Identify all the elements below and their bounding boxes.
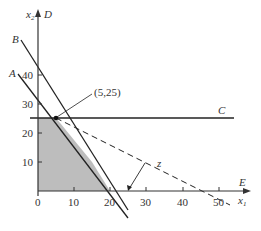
y-tick-label-40: 40	[22, 69, 34, 81]
y-tick-label-20: 20	[22, 127, 34, 139]
lp-diagram: (5,25) 10 20 30 40 0 10 20 30 40 50 x2 D…	[0, 0, 261, 231]
line-c-label: C	[218, 104, 226, 116]
line-b-label: B	[12, 33, 19, 45]
x-axis-end-label: E	[238, 176, 246, 188]
x-tick-label-10: 10	[68, 196, 80, 208]
line-z-label: z	[156, 157, 162, 169]
y-axis-label-sub: 2	[31, 14, 35, 22]
y-axis-label: x2	[25, 8, 35, 22]
x-tick-label-50: 50	[213, 196, 225, 208]
optimal-point-label: (5,25)	[94, 86, 121, 99]
x-axis-arrow-icon	[243, 188, 251, 194]
x-tick-label-20: 20	[104, 196, 116, 208]
z-direction-arrow	[129, 163, 145, 189]
y-tick-label-30: 30	[22, 98, 34, 110]
x-tick-label-0: 0	[35, 196, 41, 208]
line-a-label: A	[8, 67, 16, 79]
x-tick-label-30: 30	[140, 196, 152, 208]
x-axis-label: x1	[237, 194, 246, 208]
x-axis-label-sub: 1	[243, 200, 247, 208]
y-axis-end-label: D	[43, 8, 52, 20]
y-axis-arrow-icon	[35, 9, 41, 17]
y-tick-label-10: 10	[22, 156, 34, 168]
x-tick-label-40: 40	[177, 196, 189, 208]
